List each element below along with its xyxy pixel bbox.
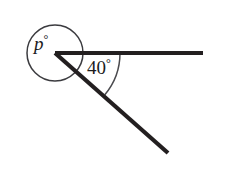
degree-symbol-icon: °: [44, 32, 49, 46]
reflex-angle-label: p°: [34, 33, 48, 53]
degree-symbol-icon: °: [106, 56, 111, 70]
geometry-figure: p° 40°: [0, 0, 237, 169]
known-angle-label: 40°: [87, 57, 111, 77]
geometry-canvas: [0, 0, 237, 169]
known-angle-value: 40: [87, 57, 106, 78]
diagonal-ray: [55, 53, 168, 153]
reflex-angle-variable: p: [34, 33, 44, 54]
